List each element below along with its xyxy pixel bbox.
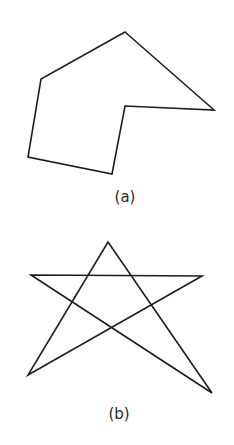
- figure-label-a: (a): [115, 188, 136, 206]
- polygon-a: [28, 32, 214, 174]
- star-polygon-b: [28, 242, 212, 393]
- figure-label-b: (b): [108, 405, 129, 423]
- diagram-canvas: [0, 0, 234, 445]
